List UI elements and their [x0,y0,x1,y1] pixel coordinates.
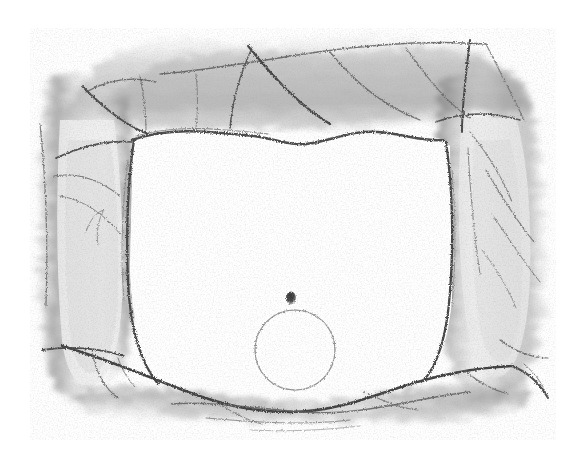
paper-grain-overlay [30,28,556,440]
sketch-svg [0,0,579,466]
sketch-canvas: Graphite sketch of a tree-trunk archway … [0,0,579,466]
